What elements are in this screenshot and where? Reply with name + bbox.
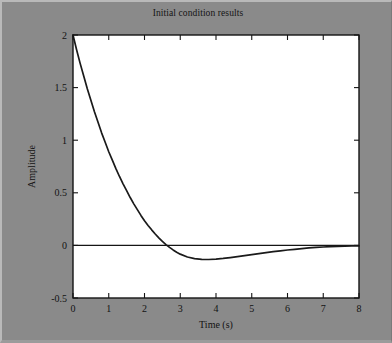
chart-plot: 012345678-0.500.511.52 Time (s) Amplitud… bbox=[2, 2, 392, 343]
tick-label: 4 bbox=[214, 303, 219, 314]
tick-label: 7 bbox=[321, 303, 326, 314]
figure-panel: Initial condition results 012345678-0.50… bbox=[0, 0, 392, 343]
tick-label: 1 bbox=[106, 303, 111, 314]
tick-label: 0.5 bbox=[55, 187, 68, 198]
tick-label: 0 bbox=[62, 240, 67, 251]
tick-label: 1.5 bbox=[55, 82, 68, 93]
x-axis-title: Time (s) bbox=[199, 319, 233, 331]
tick-label: 8 bbox=[357, 303, 362, 314]
tick-label: 2 bbox=[142, 303, 147, 314]
tick-label: 3 bbox=[178, 303, 183, 314]
tick-label: -0.5 bbox=[51, 293, 67, 304]
tick-label: 0 bbox=[71, 303, 76, 314]
tick-label: 1 bbox=[62, 135, 67, 146]
tick-label: 2 bbox=[62, 30, 67, 41]
tick-label: 5 bbox=[249, 303, 254, 314]
y-axis-title: Amplitude bbox=[26, 145, 37, 188]
tick-label: 6 bbox=[285, 303, 290, 314]
